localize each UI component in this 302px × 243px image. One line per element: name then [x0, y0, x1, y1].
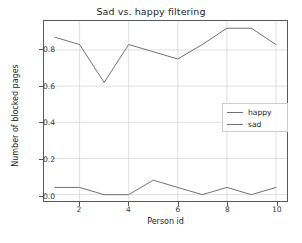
- legend: happy sad: [222, 103, 288, 132]
- y-tick-label: 0.2: [15, 155, 55, 164]
- x-tick-label: 6: [163, 205, 193, 214]
- x-tick-label: 2: [64, 205, 94, 214]
- y-tick-label: 0.8: [15, 45, 55, 54]
- x-tick-mark: [178, 202, 179, 206]
- y-tick-label: 0.0: [15, 191, 55, 200]
- chart-figure: Sad vs. happy filtering Person id Number…: [0, 0, 302, 243]
- x-tick-mark: [227, 202, 228, 206]
- legend-item-sad: sad: [227, 119, 285, 130]
- x-axis-label: Person id: [43, 217, 288, 226]
- chart-title: Sad vs. happy filtering: [0, 6, 302, 17]
- y-tick-mark: [39, 86, 43, 87]
- legend-label-sad: sad: [248, 119, 261, 130]
- x-tick-label: 8: [212, 205, 242, 214]
- y-tick-mark: [39, 122, 43, 123]
- y-tick-label: 0.4: [15, 118, 55, 127]
- x-tick-mark: [128, 202, 129, 206]
- legend-swatch-sad: [227, 124, 243, 125]
- y-tick-mark: [39, 159, 43, 160]
- legend-swatch-happy: [227, 112, 243, 113]
- x-tick-mark: [79, 202, 80, 206]
- x-tick-label: 10: [262, 205, 292, 214]
- y-tick-mark: [39, 196, 43, 197]
- y-tick-mark: [39, 49, 43, 50]
- legend-label-happy: happy: [248, 107, 272, 118]
- y-tick-label: 0.6: [15, 81, 55, 90]
- legend-item-happy: happy: [227, 107, 285, 118]
- x-tick-mark: [277, 202, 278, 206]
- x-tick-label: 4: [113, 205, 143, 214]
